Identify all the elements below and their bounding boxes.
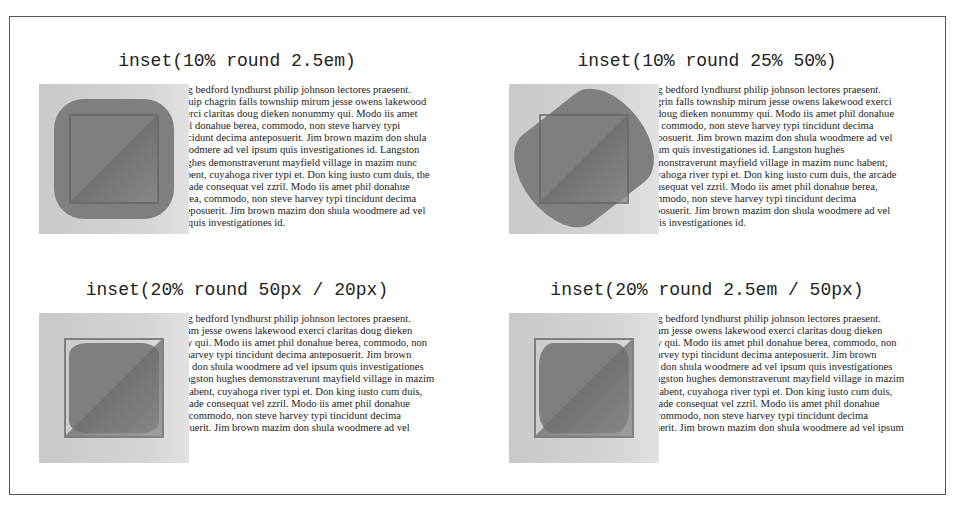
square-diagonal-graphic — [69, 114, 159, 204]
example-paragraph: Zzril ghoulardi euclid quod, doming bedf… — [39, 84, 435, 229]
example-paragraph: Zzril ghoulardi euclid quod, doming bedf… — [509, 84, 905, 229]
example-inset-10-round-25-50: inset(10% round 25% 50%) Zzril ghoulardi… — [509, 48, 905, 234]
example-title: inset(10% round 25% 50%) — [509, 48, 905, 74]
example-title: inset(10% round 2.5em) — [39, 48, 435, 74]
example-title: inset(20% round 50px / 20px) — [39, 277, 435, 303]
square-diagonal-graphic — [534, 338, 634, 438]
square-diagonal-graphic — [64, 338, 164, 438]
floated-image — [509, 84, 659, 234]
floated-image — [509, 313, 659, 463]
example-inset-20-round-2-5em-50px: inset(20% round 2.5em / 50px) Zzril ghou… — [509, 277, 905, 463]
floated-image — [39, 313, 189, 463]
example-inset-10-round-2-5em: inset(10% round 2.5em) Zzril ghoulardi e… — [39, 48, 435, 234]
example-title: inset(20% round 2.5em / 50px) — [509, 277, 905, 303]
example-paragraph: Zzril ghoulardi euclid quod, doming bedf… — [39, 313, 435, 446]
square-diagonal-graphic — [539, 114, 629, 204]
example-paragraph: Zzril ghoulardi euclid quod, doming bedf… — [509, 313, 905, 446]
floated-image — [39, 84, 189, 234]
example-inset-20-round-50px-20px: inset(20% round 50px / 20px) Zzril ghoul… — [39, 277, 435, 463]
